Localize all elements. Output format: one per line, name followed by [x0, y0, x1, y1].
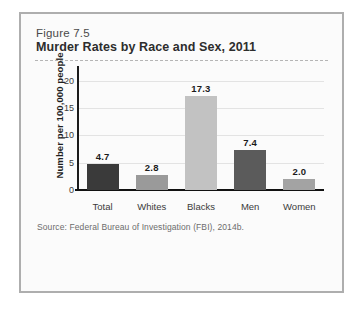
- bar-value-label: 17.3: [191, 83, 210, 94]
- bar: [234, 150, 266, 190]
- bar-value-label: 7.4: [243, 137, 257, 148]
- bar-group: 7.4: [228, 70, 272, 190]
- bar-chart: Number per 100,000 people 05101520 4.72.…: [33, 66, 330, 216]
- bar-value-label: 2.8: [145, 162, 159, 173]
- bar-group: 2.8: [130, 70, 174, 190]
- y-axis-tick-label: 10: [64, 130, 74, 140]
- figure-card-inner: Figure 7.5 Murder Rates by Race and Sex,…: [21, 14, 342, 291]
- x-axis-tick-label: Women: [277, 201, 321, 212]
- bar-series: 4.72.817.37.42.0: [78, 70, 324, 190]
- bar: [185, 96, 217, 190]
- x-axis-tick-label: Men: [228, 201, 272, 212]
- bar: [136, 175, 168, 190]
- bar-group: 17.3: [179, 70, 223, 190]
- x-axis-tick-label: Blacks: [179, 201, 223, 212]
- figure-page: Figure 7.5 Murder Rates by Race and Sex,…: [0, 0, 361, 314]
- bar-group: 2.0: [277, 70, 321, 190]
- source-note: Source: Federal Bureau of Investigation …: [37, 222, 330, 232]
- x-axis-tick-label: Total: [80, 201, 124, 212]
- plot-area: 05101520 4.72.817.37.42.0: [78, 70, 324, 190]
- figure-title: Murder Rates by Race and Sex, 2011: [36, 40, 330, 54]
- x-axis-tick-label: Whites: [130, 201, 174, 212]
- y-axis-tick-label: 5: [69, 158, 74, 168]
- x-axis-labels: TotalWhitesBlacksMenWomen: [78, 201, 324, 212]
- figure-number: Figure 7.5: [36, 27, 330, 39]
- bar: [87, 164, 119, 190]
- y-axis-tick-label: 0: [69, 185, 74, 195]
- bar-group: 4.7: [80, 70, 124, 190]
- figure-card: Figure 7.5 Murder Rates by Race and Sex,…: [19, 12, 344, 293]
- bar-value-label: 4.7: [96, 151, 110, 162]
- bar: [283, 179, 315, 190]
- title-divider: [35, 60, 328, 61]
- y-axis-tick-label: 20: [64, 76, 74, 86]
- y-axis-tick-label: 15: [64, 103, 74, 113]
- bar-value-label: 2.0: [292, 166, 306, 177]
- y-axis-label: Number per 100,000 people: [54, 61, 65, 179]
